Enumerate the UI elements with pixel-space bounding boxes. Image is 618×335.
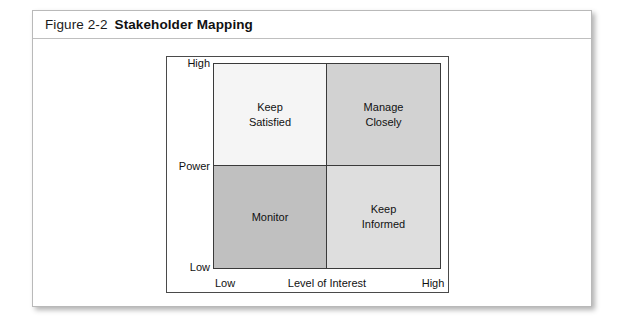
quadrant-manage-closely: Manage Closely (327, 64, 440, 166)
figure-number: Figure 2-2 (45, 17, 108, 32)
y-axis-low-label: Low (170, 261, 210, 273)
x-axis-title: Level of Interest (270, 277, 384, 289)
figure-header: Figure 2-2 Stakeholder Mapping (33, 11, 591, 39)
stakeholder-matrix-plot: Keep Satisfied Manage Closely Monitor Ke… (213, 63, 441, 269)
quadrant-monitor-label: Monitor (252, 210, 289, 225)
quadrant-keep-informed-label: Keep Informed (362, 202, 405, 232)
quadrant-keep-satisfied-label: Keep Satisfied (249, 100, 291, 130)
figure-page-card: Figure 2-2 Stakeholder Mapping High Powe… (32, 10, 592, 307)
quadrant-keep-satisfied: Keep Satisfied (214, 64, 327, 166)
quadrant-monitor: Monitor (214, 166, 327, 268)
quadrant-manage-closely-label: Manage Closely (364, 100, 404, 130)
y-axis-high-label: High (170, 57, 210, 69)
quadrant-keep-informed: Keep Informed (327, 166, 440, 268)
x-axis-high-label: High (413, 277, 453, 289)
figure-title: Stakeholder Mapping (115, 17, 253, 32)
x-axis-low-label: Low (205, 277, 245, 289)
y-axis-title: Power (166, 160, 210, 172)
